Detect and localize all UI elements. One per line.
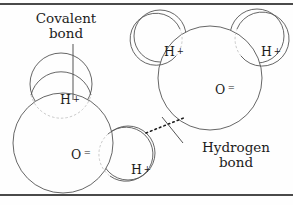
atom-symbol: H <box>164 44 175 59</box>
atom-label-right-oxygen: O= <box>199 67 235 112</box>
atom-charge: + <box>142 164 151 174</box>
atom-charge: + <box>272 46 281 56</box>
hydrogen-bond-label: Hydrogen bond <box>184 140 288 170</box>
atom-charge: + <box>71 94 80 104</box>
atom-charge: = <box>81 148 91 158</box>
atom-label-right-hydrogen-right: H+ <box>245 29 281 74</box>
atom-symbol: O <box>71 147 81 162</box>
atom-symbol: H <box>261 44 272 59</box>
atom-label-right-hydrogen-left: H+ <box>148 29 184 74</box>
atom-charge: = <box>225 83 235 93</box>
atom-label-left-oxygen: O= <box>55 132 91 177</box>
atom-charge: + <box>175 46 184 56</box>
atom-label-left-hydrogen-top: H+ <box>44 77 80 122</box>
atom-symbol: H <box>60 92 71 107</box>
figure-container: Covalent bond Hydrogen bond H+ O= H+ H+ … <box>0 0 293 205</box>
covalent-bond-label: Covalent bond <box>18 11 114 41</box>
atom-symbol: H <box>131 162 142 177</box>
atom-symbol: O <box>215 82 225 97</box>
atom-label-left-hydrogen-right: H+ <box>115 147 151 192</box>
